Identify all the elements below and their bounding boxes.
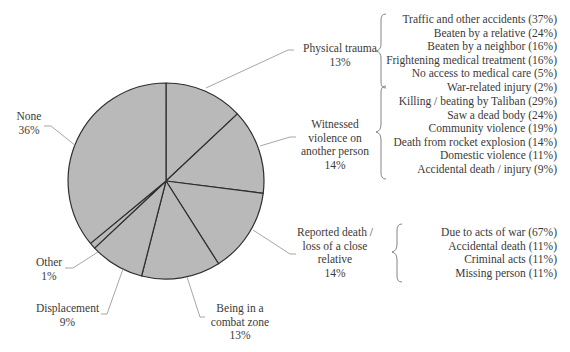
breakdown-item: Domestic violence (11%) xyxy=(393,149,557,163)
breakdown-item: Traffic and other accidents (37%) xyxy=(386,13,557,27)
breakdown-item: Community violence (19%) xyxy=(393,122,557,136)
brace-physical xyxy=(376,14,386,88)
breakdown-item: Frightening medical treatment (16%) xyxy=(386,54,557,68)
breakdown-reported-death: Due to acts of war (67%) Accidental deat… xyxy=(441,226,557,280)
breakdown-item: Killing / beating by Taliban (29%) xyxy=(393,95,557,109)
brace-witnessed xyxy=(376,86,386,179)
breakdown-witnessed-violence: Killing / beating by Taliban (29%) Saw a… xyxy=(393,95,557,177)
breakdown-item: Accidental death (11%) xyxy=(441,240,557,254)
breakdown-item: Criminal acts (11%) xyxy=(441,253,557,267)
breakdown-item: Accidental death / injury (9%) xyxy=(393,163,557,177)
brace-death xyxy=(392,224,402,282)
breakdown-physical-trauma: Traffic and other accidents (37%) Beaten… xyxy=(386,13,557,95)
breakdown-item: Beaten by a neighbor (16%) xyxy=(386,40,557,54)
breakdown-item: Missing person (11%) xyxy=(441,267,557,281)
breakdown-item: Saw a dead body (24%) xyxy=(393,109,557,123)
breakdown-item: War-related injury (2%) xyxy=(386,81,557,95)
breakdown-item: Due to acts of war (67%) xyxy=(441,226,557,240)
breakdown-item: Death from rocket explosion (14%) xyxy=(393,136,557,150)
breakdown-item: No access to medical care (5%) xyxy=(386,67,557,81)
breakdown-item: Beaten by a relative (24%) xyxy=(386,27,557,41)
